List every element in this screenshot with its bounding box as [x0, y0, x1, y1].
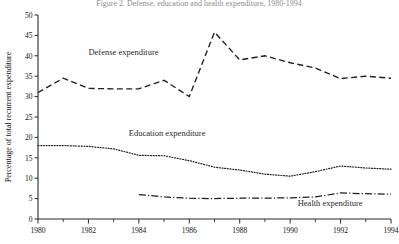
y-axis-title: Percentage of total recurrent expenditur…	[4, 51, 13, 182]
series-line-defense-expenditure	[38, 32, 391, 96]
y-axis-ticks: 05101520253035404550	[25, 11, 38, 224]
x-tick-label: 1990	[283, 226, 298, 235]
x-tick-label: 1992	[333, 226, 348, 235]
chart-figure: Figure 2. Defense, education and health …	[0, 0, 399, 244]
x-tick-label: 1986	[182, 226, 197, 235]
series-line-education-expenditure	[38, 146, 391, 177]
x-tick-label: 1980	[31, 226, 46, 235]
x-axis-ticks: 19801982198419861988199019921994	[31, 219, 399, 235]
y-tick-label: 0	[29, 215, 33, 224]
x-tick-label: 1982	[81, 226, 96, 235]
y-tick-label: 10	[25, 174, 33, 183]
y-tick-label: 50	[25, 11, 33, 20]
y-tick-label: 25	[25, 113, 33, 122]
series-annotations: Defense expenditureEducation expenditure…	[88, 47, 362, 208]
y-tick-label: 30	[25, 92, 33, 101]
y-tick-label: 5	[29, 194, 33, 203]
series-label-education-expenditure: Education expenditure	[129, 128, 206, 138]
series-label-defense-expenditure: Defense expenditure	[88, 47, 158, 57]
line-chart: Figure 2. Defense, education and health …	[0, 0, 399, 244]
series-lines	[38, 32, 391, 198]
y-tick-label: 40	[25, 52, 33, 61]
y-tick-label: 20	[25, 133, 33, 142]
x-tick-label: 1994	[384, 226, 399, 235]
y-tick-label: 45	[25, 31, 33, 40]
series-label-health-expenditure: Health expenditure	[298, 198, 363, 208]
chart-title: Figure 2. Defense, education and health …	[96, 0, 302, 8]
y-tick-label: 15	[25, 154, 33, 163]
y-tick-label: 35	[25, 72, 33, 81]
x-tick-label: 1988	[232, 226, 247, 235]
x-tick-label: 1984	[131, 226, 146, 235]
